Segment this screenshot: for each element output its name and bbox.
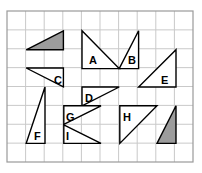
- label-triangle-h: H: [123, 111, 131, 123]
- label-triangle-a: A: [89, 54, 97, 66]
- label-triangle-d: D: [85, 92, 93, 104]
- triangles-grid-diagram: ABCDEFGHI: [0, 0, 202, 173]
- label-triangle-c: C: [54, 74, 62, 86]
- label-triangle-e: E: [161, 74, 168, 86]
- label-triangle-i: I: [66, 130, 69, 142]
- label-triangle-f: F: [34, 130, 41, 142]
- geometry-figure: ABCDEFGHI: [0, 0, 202, 173]
- label-triangle-b: B: [128, 54, 136, 66]
- label-triangle-g: G: [66, 111, 75, 123]
